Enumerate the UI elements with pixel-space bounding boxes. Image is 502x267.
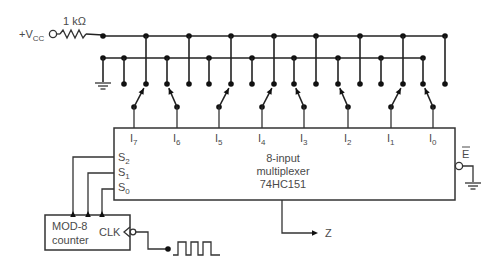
high-contact [400,81,406,87]
select-s0-wire [102,189,114,215]
low-contact [121,81,127,87]
s0-arrow-icon [99,211,105,217]
high-contact [228,81,234,87]
input-switch-i4 [249,33,277,128]
vcc-terminal-icon [49,30,56,37]
counter-label-line1: MOD-8 [52,220,87,232]
ground-icon [95,83,111,89]
clock-bubble-icon [130,229,136,235]
clock-input-node [165,246,171,252]
high-contact [143,81,149,87]
input-switch-i6 [164,33,192,128]
output-label-z: Z [325,227,332,239]
mod8-counter: MOD-8 counter CLK [45,215,130,250]
low-contact [206,81,212,87]
enable-ground-icon [465,183,481,189]
clock-input-label: CLK [99,226,121,238]
high-bus-node [100,33,106,39]
counter-label-line2: counter [52,234,89,246]
low-contact [378,81,384,87]
square-wave-icon [173,242,220,255]
low-contact [420,81,426,87]
enable-bubble-icon [455,162,462,169]
clock-wire [136,232,168,249]
mux-title-line2: multiplexer [256,165,310,177]
output-arrow-icon [312,230,318,236]
vcc-label: +VCC [19,28,45,43]
low-contact [335,81,341,87]
output-wire [282,200,312,233]
multiplexer-circuit-diagram: +VCC 1 kΩ 8-input multiplexer 74HC151 I7… [0,0,502,267]
s1-arrow-icon [85,211,91,217]
resistor-icon [60,30,86,38]
s2-arrow-icon [70,211,76,217]
input-switch-i7 [121,33,149,128]
low-contact [164,81,170,87]
enable-wire [463,166,473,182]
input-switch-i3 [291,33,319,128]
mux-title-line1: 8-input [266,152,300,164]
high-contact [271,81,277,87]
resistor-label: 1 kΩ [63,15,86,27]
select-s2-wire [73,157,114,215]
high-contact [442,81,448,87]
input-switch-i2 [335,33,363,128]
enable-label: E [462,148,469,160]
select-s1-wire [88,173,114,215]
mux-part-number: 74HC151 [260,178,306,190]
high-contact [313,81,319,87]
input-switch-i0 [420,33,448,128]
high-contact [186,81,192,87]
high-contact [357,81,363,87]
low-contact [249,81,255,87]
low-contact [291,81,297,87]
input-switch-i1 [378,33,406,128]
input-switch-i5 [206,33,234,128]
multiplexer-chip: 8-input multiplexer 74HC151 I7 I6 I5 I4 … [114,128,470,200]
